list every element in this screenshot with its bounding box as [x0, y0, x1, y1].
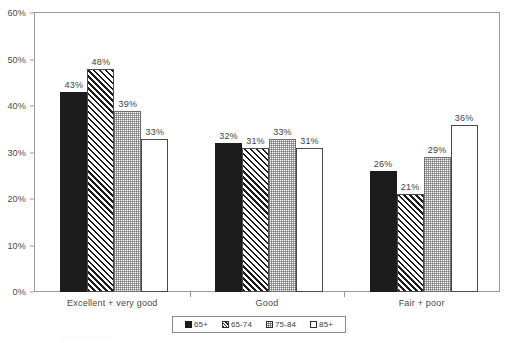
legend-label: 65-74 — [231, 320, 252, 329]
legend-label: 75-84 — [275, 320, 296, 329]
bar-value-label: 31% — [300, 136, 319, 146]
legend-swatch-icon — [185, 321, 192, 328]
legend-item[interactable]: 65+ — [185, 320, 208, 329]
bar — [60, 92, 87, 292]
x-category-label: Good — [256, 298, 279, 308]
bar — [114, 111, 141, 292]
bar — [370, 171, 397, 292]
bar — [397, 194, 424, 292]
y-tick-mark — [30, 245, 34, 246]
y-tick-label: 40% — [7, 101, 26, 111]
y-tick-mark — [30, 292, 34, 293]
bar — [451, 125, 478, 292]
bar-value-label: 31% — [246, 136, 265, 146]
y-axis: 0%10%20%30%40%50%60% — [0, 0, 34, 292]
y-tick-mark — [30, 106, 34, 107]
legend-label: 65+ — [194, 320, 208, 329]
y-tick-mark — [30, 59, 34, 60]
bar — [296, 148, 323, 292]
legend-label: 85+ — [319, 320, 333, 329]
bar — [242, 148, 269, 292]
legend-item[interactable]: 75-84 — [266, 320, 296, 329]
bar — [424, 157, 451, 292]
x-category-label: Excellent + very good — [67, 298, 158, 308]
bars-layer: 43%48%39%33%32%31%33%31%26%21%29%36% — [35, 13, 499, 292]
y-tick-label: 50% — [7, 55, 26, 65]
bar — [141, 139, 168, 292]
legend-item[interactable]: 85+ — [310, 320, 333, 329]
bar-value-label: 21% — [401, 182, 420, 192]
x-axis-separator — [190, 292, 191, 297]
bar-value-label: 39% — [119, 99, 138, 109]
bar-value-label: 32% — [219, 131, 238, 141]
y-tick-label: 30% — [7, 148, 26, 158]
bar-value-label: 48% — [92, 57, 111, 67]
legend-swatch-icon — [222, 321, 229, 328]
bar-value-label: 26% — [374, 159, 393, 169]
x-category-label: Fair + poor — [399, 298, 445, 308]
bar-value-label: 33% — [146, 127, 165, 137]
bar-value-label: 29% — [428, 145, 447, 155]
bar — [87, 69, 114, 292]
legend-item[interactable]: 65-74 — [222, 320, 252, 329]
y-tick-label: 20% — [7, 194, 26, 204]
y-tick-label: 0% — [13, 287, 26, 297]
bar-value-label: 43% — [65, 80, 84, 90]
bar-value-label: 36% — [455, 113, 474, 123]
y-tick-mark — [30, 13, 34, 14]
y-tick-label: 60% — [7, 8, 26, 18]
bar-value-label: 33% — [273, 127, 292, 137]
bar — [215, 143, 242, 292]
bar-chart: 0%10%20%30%40%50%60% 43%48%39%33%32%31%3… — [0, 0, 505, 343]
y-tick-label: 10% — [7, 241, 26, 251]
x-axis-separator — [344, 292, 345, 297]
legend-swatch-icon — [266, 321, 273, 328]
legend-swatch-icon — [310, 321, 317, 328]
bar — [269, 139, 296, 292]
legend: 65+65-7475-8485+ — [172, 316, 346, 333]
scan-artifact — [60, 336, 112, 340]
y-tick-mark — [30, 199, 34, 200]
y-tick-mark — [30, 152, 34, 153]
